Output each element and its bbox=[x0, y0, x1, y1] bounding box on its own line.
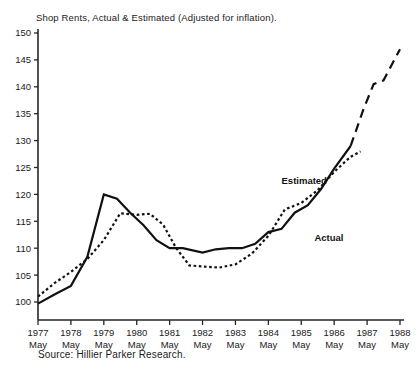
x-tick-month-label: May bbox=[226, 339, 244, 350]
x-tick-year-label: 1987 bbox=[357, 327, 378, 338]
y-tick-label: 145 bbox=[15, 54, 31, 65]
x-tick-year-label: 1982 bbox=[192, 327, 213, 338]
x-tick-month-label: May bbox=[358, 339, 376, 350]
x-axis: 1977May1978May1979May1980May1981May1982M… bbox=[27, 320, 410, 350]
series-line-estimated bbox=[38, 151, 361, 296]
y-tick-label: 110 bbox=[16, 243, 31, 254]
shop-rents-chart-figure: Shop Rents, Actual & Estimated (Adjusted… bbox=[0, 0, 420, 369]
series-annotations: EstimatedActual bbox=[282, 175, 344, 244]
x-tick-month-label: May bbox=[391, 339, 409, 350]
x-tick-month-label: May bbox=[292, 339, 310, 350]
series-line-estimated-forecast bbox=[351, 49, 400, 146]
x-tick-month-label: May bbox=[194, 339, 212, 350]
x-tick-year-label: 1979 bbox=[93, 327, 114, 338]
annotation-actual: Actual bbox=[314, 232, 343, 243]
y-tick-label: 135 bbox=[15, 108, 31, 119]
x-tick-year-label: 1983 bbox=[225, 327, 246, 338]
annotation-estimated: Estimated bbox=[282, 175, 328, 186]
x-tick-month-label: May bbox=[325, 339, 343, 350]
x-tick-year-label: 1984 bbox=[258, 327, 279, 338]
x-tick-year-label: 1977 bbox=[27, 327, 48, 338]
x-tick-year-label: 1978 bbox=[60, 327, 81, 338]
source-note: Source: Hillier Parker Research. bbox=[38, 349, 186, 360]
plot-area: 100105110115120125130135140145150 1977Ma… bbox=[0, 0, 420, 369]
series-line-actual bbox=[38, 146, 351, 304]
y-tick-label: 140 bbox=[15, 81, 31, 92]
y-tick-label: 150 bbox=[15, 27, 31, 38]
x-tick-year-label: 1986 bbox=[324, 327, 345, 338]
x-tick-month-label: May bbox=[259, 339, 277, 350]
y-tick-label: 120 bbox=[15, 189, 31, 200]
y-axis: 100105110115120125130135140145150 bbox=[15, 27, 38, 320]
y-tick-label: 125 bbox=[15, 162, 31, 173]
x-tick-year-label: 1981 bbox=[159, 327, 180, 338]
y-tick-label: 105 bbox=[15, 270, 31, 281]
data-series-group bbox=[38, 49, 400, 303]
y-tick-label: 130 bbox=[15, 135, 31, 146]
y-tick-label: 100 bbox=[15, 296, 31, 307]
x-tick-year-label: 1980 bbox=[126, 327, 147, 338]
y-tick-label: 115 bbox=[16, 216, 31, 227]
x-tick-year-label: 1985 bbox=[291, 327, 312, 338]
x-tick-year-label: 1988 bbox=[389, 327, 410, 338]
